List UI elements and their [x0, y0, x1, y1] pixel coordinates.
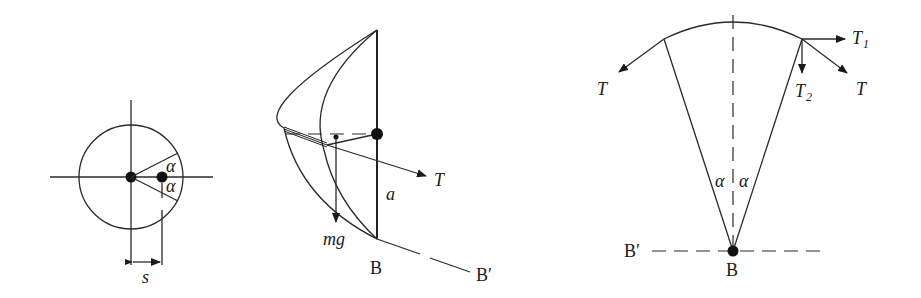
b-line-solid	[377, 239, 420, 254]
force-diagram-panel: T T T1 T2 α α B B′	[597, 15, 869, 280]
point-b-label: B	[370, 258, 382, 278]
point-b-label: B	[726, 260, 738, 280]
point-b-prime-label: B′	[624, 241, 640, 261]
tension-left-arrow	[619, 39, 664, 72]
top-view-panel: α α s	[50, 100, 213, 287]
side-view-panel: T a mg B B′	[277, 30, 492, 285]
b-line-dashed	[430, 258, 470, 272]
alpha-left-label: α	[715, 171, 725, 191]
physics-diagram: α α s T a mg B B′ T T	[0, 0, 921, 298]
alpha-lower-label: α	[166, 176, 176, 196]
weight-mg-label: mg	[323, 229, 345, 249]
offset-s-label: s	[142, 267, 149, 287]
t2-label: T2	[795, 81, 812, 104]
tension-right-label: T	[856, 79, 868, 99]
right-string	[733, 39, 802, 251]
t1-label: T1	[852, 28, 869, 51]
inner-curve	[320, 30, 377, 239]
point-b-dot	[728, 246, 739, 257]
tension-t-label: T	[434, 170, 446, 190]
alpha-right-label: α	[739, 171, 749, 191]
tension-right-arrow	[802, 39, 847, 73]
tension-left-label: T	[597, 79, 609, 99]
alpha-upper-label: α	[166, 156, 176, 176]
point-b-prime-label: B′	[476, 265, 492, 285]
pivot-dot	[371, 128, 383, 140]
length-a-label: a	[386, 184, 395, 204]
left-string	[664, 39, 733, 251]
